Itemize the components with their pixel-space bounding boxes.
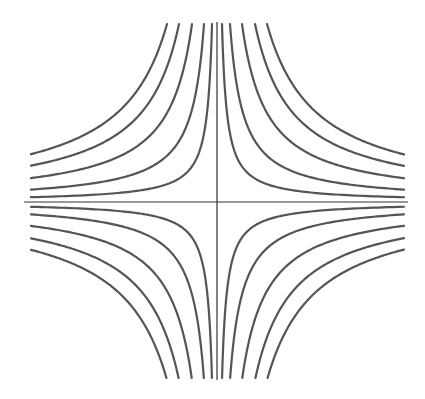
hyperbola-curve bbox=[255, 24, 404, 166]
hyperbola-curve bbox=[230, 24, 404, 190]
hyperbola-curve bbox=[31, 238, 179, 378]
hyperbola-curve bbox=[31, 24, 204, 190]
hyperbola-curve bbox=[255, 238, 404, 378]
hyperbola-curve bbox=[31, 24, 167, 154]
hyperbola-curve bbox=[31, 250, 166, 378]
hyperbola-curve bbox=[268, 250, 404, 378]
hyperbola-level-curves-plot bbox=[0, 0, 425, 399]
hyperbola-curve bbox=[31, 214, 204, 378]
hyperbola-curve bbox=[267, 24, 404, 154]
hyperbola-curve bbox=[230, 214, 404, 378]
hyperbola-curve bbox=[31, 24, 212, 197]
hyperbola-curve bbox=[31, 24, 179, 166]
hyperbola-curve bbox=[31, 207, 212, 378]
hyperbola-curve bbox=[222, 207, 404, 378]
coordinate-axes bbox=[24, 22, 408, 380]
